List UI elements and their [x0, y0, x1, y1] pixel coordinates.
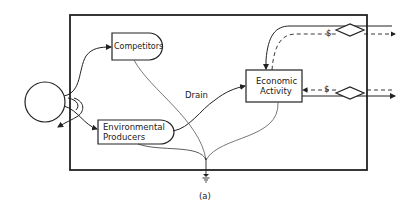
producers-label-line2: Producers [103, 132, 145, 142]
money-label-top: $ [326, 28, 331, 38]
flow-source-to-producers [64, 106, 97, 129]
flow-source-to-competitors [64, 47, 111, 96]
producers-label-line1: Environmental [103, 122, 165, 132]
money-label-bottom: $ [324, 84, 329, 94]
flow-economy-drain [206, 102, 278, 160]
energy-source-circle [25, 82, 65, 122]
economy-label-line2: Activity [260, 86, 292, 96]
economy-label-line1: Economic [256, 76, 297, 86]
flow-money-out-top [272, 34, 395, 70]
flow-producers-drain [138, 144, 206, 160]
flow-competitors-drain [134, 60, 206, 160]
exchange-diamond-bottom [336, 87, 364, 99]
heat-sink-icon [203, 174, 210, 182]
diagram-canvas [0, 0, 411, 216]
drain-label: Drain [185, 90, 208, 100]
figure-caption: (a) [199, 191, 211, 201]
flow-producers-to-economy [173, 86, 245, 131]
competitors-label: Competitors [114, 42, 163, 52]
